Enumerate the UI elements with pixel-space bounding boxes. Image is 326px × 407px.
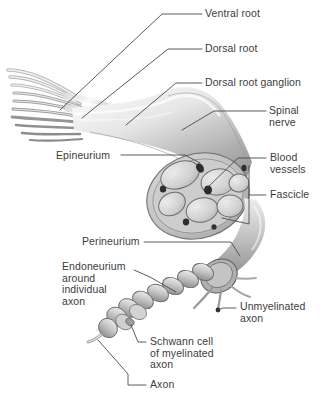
leader-axon — [98, 340, 146, 385]
label-dorsal-root: Dorsal root — [205, 43, 257, 55]
leader-unmyelinated-axon — [218, 308, 236, 310]
label-spinal-nerve: Spinal nerve — [269, 105, 299, 128]
label-axon: Axon — [150, 379, 174, 391]
label-ventral-root: Ventral root — [205, 8, 260, 20]
label-schwann-cell: Schwann cell of myelinated axon — [150, 336, 214, 371]
label-unmyelinated-axon: Unmyelinated axon — [240, 301, 305, 324]
label-dorsal-root-ganglion: Dorsal root ganglion — [205, 77, 301, 89]
label-blood-vessels: Blood vessels — [270, 152, 306, 175]
figure-canvas: Ventral root Dorsal root Dorsal root gan… — [0, 0, 326, 407]
label-epineurium: Epineurium — [56, 150, 110, 162]
label-perineurium: Perineurium — [82, 236, 140, 248]
label-endoneurium: Endoneurium around individual axon — [62, 261, 126, 307]
leader-schwann-cell — [131, 325, 146, 342]
label-fascicle: Fascicle — [270, 189, 309, 201]
